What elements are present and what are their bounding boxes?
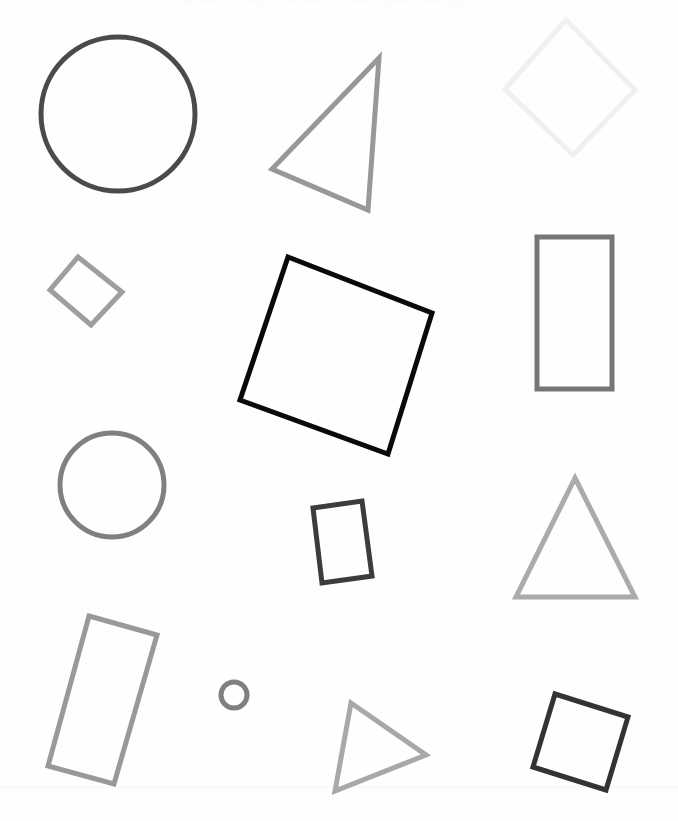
- shape-circle-tiny: Tiny circle: [221, 682, 247, 708]
- shape-circle-medium-gray: Medium gray circle: [60, 433, 164, 537]
- shape-rectangle-small-dark: Small dark tilted rectangle: [313, 501, 372, 583]
- shape-diamond-top-right: Pale diamond: [505, 20, 635, 155]
- shape-diamond-small-left: Small rotated square: [50, 257, 122, 325]
- shape-circle-large-dark: Large dark circle: [41, 37, 195, 191]
- shape-rectangle-right-tall: Tall gray rectangle: [537, 237, 612, 389]
- shape-triangle-bottom-middle: Bottom tilted triangle: [335, 703, 426, 791]
- shapes-layer: Large dark circleTilted gray trianglePal…: [0, 0, 678, 821]
- shapes-group: Large dark circleTilted gray trianglePal…: [41, 20, 635, 791]
- shape-square-bottom-right: Bottom right dark square: [533, 694, 628, 790]
- shape-rectangle-bottom-left: Tilted tall rectangle: [48, 616, 157, 784]
- shape-triangle-top-middle: Tilted gray triangle: [272, 58, 379, 210]
- shape-square-large-black: Large black rotated square: [240, 257, 432, 454]
- shapes-canvas: random shapes scattered on a plain backg…: [0, 0, 678, 821]
- shape-triangle-right-upright: Upright light gray triangle: [516, 478, 635, 597]
